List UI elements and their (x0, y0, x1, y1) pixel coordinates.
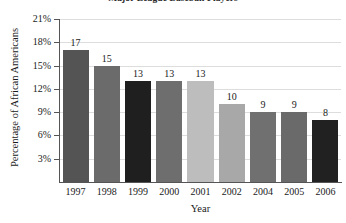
bar[interactable] (187, 81, 213, 182)
y-tick-label: 15% (11, 61, 51, 71)
bar-value-label: 10 (216, 91, 247, 102)
x-axis-label: Year (60, 203, 341, 214)
bar-chart: Major League Baseball Players Percentage… (0, 0, 346, 223)
y-tick-label: 3% (11, 154, 51, 164)
bar[interactable] (281, 112, 307, 182)
bar[interactable] (219, 104, 245, 182)
y-tick-mark (54, 19, 59, 20)
bar-series: 171513131310998 (60, 19, 341, 182)
bar-value-label: 13 (122, 68, 153, 79)
bar-value-label: 8 (310, 107, 341, 118)
bar-value-label: 9 (279, 99, 310, 110)
bar[interactable] (250, 112, 276, 182)
y-tick-mark (54, 42, 59, 43)
x-tick-label: 2006 (307, 186, 343, 197)
y-tick-mark (54, 112, 59, 113)
bar-value-label: 13 (154, 68, 185, 79)
chart-title: Major League Baseball Players (0, 0, 346, 3)
bar[interactable] (156, 81, 182, 182)
y-tick-label: 18% (11, 37, 51, 47)
bar-value-label: 9 (247, 99, 278, 110)
bar[interactable] (63, 50, 89, 182)
y-tick-label: 12% (11, 84, 51, 94)
bar-value-label: 17 (60, 37, 91, 48)
y-tick-mark (54, 135, 59, 136)
bar-value-label: 13 (185, 68, 216, 79)
x-axis-line (59, 182, 342, 183)
plot-area: 171513131310998 (60, 19, 341, 182)
y-tick-label: 9% (11, 107, 51, 117)
y-tick-mark (54, 159, 59, 160)
y-tick-label: 6% (11, 130, 51, 140)
bar[interactable] (125, 81, 151, 182)
bar[interactable] (94, 66, 120, 182)
y-tick-mark (54, 89, 59, 90)
y-tick-mark (54, 66, 59, 67)
y-tick-label: 21% (11, 14, 51, 24)
bar-value-label: 15 (91, 53, 122, 64)
bar[interactable] (312, 120, 338, 182)
y-axis-line (59, 19, 60, 183)
